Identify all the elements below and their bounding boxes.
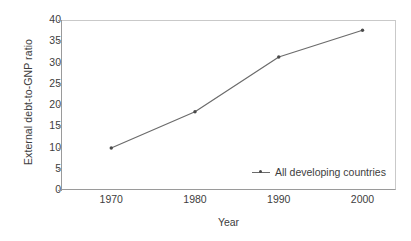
data-series-layer xyxy=(0,0,411,241)
series-line-all-developing-countries xyxy=(111,30,362,148)
data-point-marker xyxy=(361,29,364,32)
chart-figure: External debt-to-GNP ratio 0510152025303… xyxy=(0,0,411,241)
legend-line-marker-icon xyxy=(252,168,270,177)
data-point-marker xyxy=(110,146,113,149)
chart-legend: All developing countries xyxy=(252,166,386,178)
x-axis-title: Year xyxy=(61,216,396,228)
legend-label: All developing countries xyxy=(275,166,386,178)
data-point-marker xyxy=(277,55,280,58)
series-markers-all-developing-countries xyxy=(110,29,365,150)
data-point-marker xyxy=(193,110,196,113)
